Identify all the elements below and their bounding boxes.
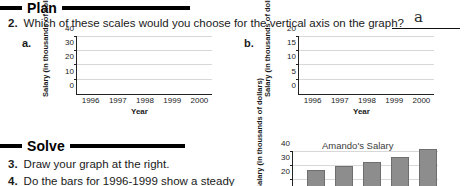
chart-a-plot-area: 40 30 20 10 0 1996 1997 1998 1999 2000 xyxy=(76,37,212,95)
section-rule-right xyxy=(62,6,190,10)
chart-b-xtick-1996: 1996 xyxy=(304,97,322,105)
answer-blank-line[interactable] xyxy=(392,28,460,29)
section-header-plan: Plan xyxy=(0,1,190,15)
chart-amando-ytick-40: 40 xyxy=(281,140,290,148)
section-header-solve: Solve xyxy=(0,139,185,153)
question-3-number: 3. xyxy=(8,157,18,171)
chart-b-y-axis-title: Salary (in thousands of dollars) xyxy=(264,35,273,97)
chart-b-xtick-1998: 1998 xyxy=(358,97,376,105)
chart-b-ytick-10: 10 xyxy=(287,53,296,61)
question-3: 3. Draw your graph at the right. xyxy=(8,157,169,171)
question-4: 4. Do the bars for 1996-1999 show a stea… xyxy=(8,174,235,186)
chart-a-xtick-1996: 1996 xyxy=(82,97,100,105)
y-tick-mark xyxy=(74,50,77,51)
section-rule-right xyxy=(70,144,185,148)
bar-2000 xyxy=(419,149,437,186)
chart-b-ytick-5: 5 xyxy=(292,68,296,76)
chart-b-plot-area: 20 15 10 5 0 1996 1997 1998 1999 2000 xyxy=(298,37,434,95)
bar-1998 xyxy=(363,162,381,186)
chart-amando-y-axis-title: Salary (in thousands of dollars) xyxy=(256,150,265,186)
gridline xyxy=(77,36,212,37)
question-3-text: Draw your graph at the right. xyxy=(24,157,170,171)
chart-a-xtick-1999: 1999 xyxy=(163,97,181,105)
chart-a-ytick-10: 10 xyxy=(65,68,74,76)
y-tick-mark xyxy=(74,64,77,65)
chart-b-ytick-20: 20 xyxy=(287,25,296,33)
chart-a-ytick-30: 30 xyxy=(65,39,74,47)
chart-b-xtick-1997: 1997 xyxy=(331,97,349,105)
gridline xyxy=(299,64,434,65)
chart-a-y-axis-title: Salary (in thousands of dollars) xyxy=(42,35,51,97)
chart-a-xtick-1998: 1998 xyxy=(136,97,154,105)
y-tick-mark xyxy=(290,179,293,180)
bar-1999 xyxy=(391,157,409,186)
y-tick-mark xyxy=(290,165,293,166)
bar-1996 xyxy=(307,170,325,186)
chart-amando-title: Amando's Salary xyxy=(322,140,394,151)
question-2-number: 2. xyxy=(8,16,18,30)
question-4-text: Do the bars for 1996-1999 show a steady xyxy=(24,174,235,186)
gridline xyxy=(299,50,434,51)
y-tick-mark xyxy=(296,64,299,65)
gridline xyxy=(77,50,212,51)
gridline xyxy=(299,36,434,37)
section-rule-left xyxy=(0,144,22,148)
chart-amando-ytick-20: 20 xyxy=(281,168,290,176)
handwritten-answer: a xyxy=(414,8,423,26)
chart-amando-plot-area: 40 30 20 xyxy=(292,151,438,186)
y-tick-mark xyxy=(290,151,293,152)
chart-b-ytick-15: 15 xyxy=(287,39,296,47)
chart-b-xtick-1999: 1999 xyxy=(385,97,403,105)
question-4-number: 4. xyxy=(8,174,18,186)
chart-amando-salary: Amando's Salary Salary (in thousands of … xyxy=(232,140,464,186)
section-title-solve: Solve xyxy=(27,139,65,153)
chart-a-ytick-40: 40 xyxy=(65,25,74,33)
chart-a-option-label: a. xyxy=(22,37,31,49)
gridline xyxy=(299,79,434,80)
y-tick-mark xyxy=(296,50,299,51)
section-rule-left xyxy=(0,6,22,10)
question-2-text: Which of these scales would you choose f… xyxy=(24,16,404,30)
y-tick-mark xyxy=(296,79,299,80)
chart-a-xtick-1997: 1997 xyxy=(109,97,127,105)
y-tick-mark xyxy=(74,36,77,37)
chart-b-option-label: b. xyxy=(244,37,254,49)
chart-b-xtick-2000: 2000 xyxy=(412,97,430,105)
y-tick-mark xyxy=(296,36,299,37)
gridline xyxy=(77,64,212,65)
chart-a-xtick-2000: 2000 xyxy=(190,97,208,105)
gridline xyxy=(77,79,212,80)
bar-1997 xyxy=(335,166,353,186)
chart-amando-ytick-30: 30 xyxy=(281,154,290,162)
chart-a-ytick-20: 20 xyxy=(65,53,74,61)
chart-b-x-axis-title: Year xyxy=(353,107,370,116)
chart-a-x-axis-title: Year xyxy=(131,107,148,116)
y-tick-mark xyxy=(74,79,77,80)
chart-b-ytick-0: 0 xyxy=(292,82,296,90)
gridline xyxy=(293,151,438,152)
chart-b: b. Salary (in thousands of dollars) 20 1… xyxy=(232,33,464,105)
chart-a-ytick-0: 0 xyxy=(70,82,74,90)
chart-a: a. Salary (in thousands of dollars) 40 3… xyxy=(0,33,232,105)
